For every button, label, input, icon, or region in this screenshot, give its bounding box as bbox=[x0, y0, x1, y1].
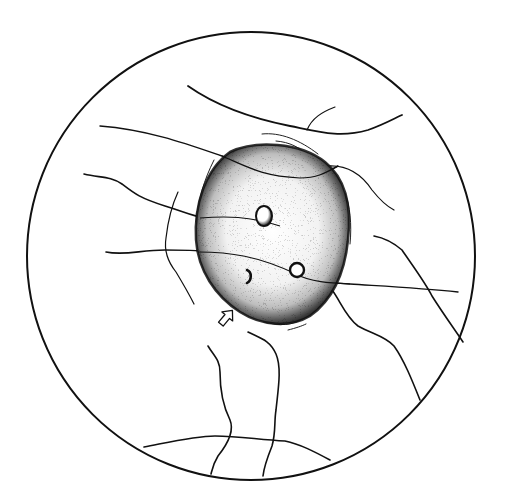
pit-upper bbox=[256, 206, 272, 226]
pit-lower-right bbox=[290, 263, 304, 277]
fundus-illustration bbox=[0, 0, 508, 496]
vessel-lower-right bbox=[332, 290, 420, 400]
vessel-left-vertical bbox=[165, 192, 194, 304]
vessel-branch-top bbox=[307, 107, 335, 130]
vessel-inferior bbox=[144, 436, 330, 460]
vessel-lower-middle bbox=[248, 332, 279, 476]
vessel-lower-left bbox=[208, 346, 231, 474]
optic-disc bbox=[196, 145, 350, 324]
vessel-superior bbox=[188, 86, 402, 134]
